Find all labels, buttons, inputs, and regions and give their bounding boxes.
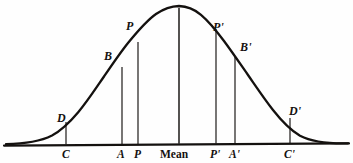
- baseline-axis: [4, 143, 349, 145]
- normal-curve-plot: [0, 0, 353, 163]
- axis-label-A: A: [117, 149, 125, 161]
- axis-label-C-prime: C': [284, 149, 295, 161]
- axis-label-mean: Mean: [160, 149, 188, 161]
- axis-label-P: P: [134, 149, 141, 161]
- axis-label-C: C: [62, 149, 70, 161]
- axis-label-P-prime: P': [210, 149, 220, 161]
- curve-label-B: B: [104, 50, 112, 62]
- normal-curve-figure: D B P P' B' D' C A P Mean P' A' C': [0, 0, 353, 163]
- curve-label-D: D: [57, 112, 66, 124]
- curve-label-P: P: [126, 20, 134, 32]
- curve-label-P-prime: P': [213, 21, 224, 33]
- ordinate-lines: [66, 8, 290, 144]
- axis-label-A-prime: A': [229, 149, 240, 161]
- curve-label-D-prime: D': [289, 105, 301, 117]
- curve-label-B-prime: B': [240, 41, 252, 53]
